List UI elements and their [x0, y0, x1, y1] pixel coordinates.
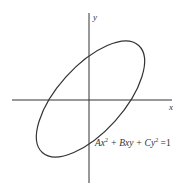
- x-axis-label: x: [168, 102, 173, 112]
- diagram-svg: x y Ax2 + Bxy + Cy2 =1: [0, 0, 186, 187]
- ellipse-curve: [18, 23, 163, 174]
- eq-rhs: =1: [158, 138, 171, 148]
- eq-term-a: Ax: [94, 138, 106, 148]
- eq-mid: + Bxy + Cy: [108, 138, 156, 148]
- conic-diagram: x y Ax2 + Bxy + Cy2 =1: [0, 0, 186, 187]
- equation-label: Ax2 + Bxy + Cy2 =1: [94, 137, 171, 148]
- y-axis-label: y: [92, 12, 97, 22]
